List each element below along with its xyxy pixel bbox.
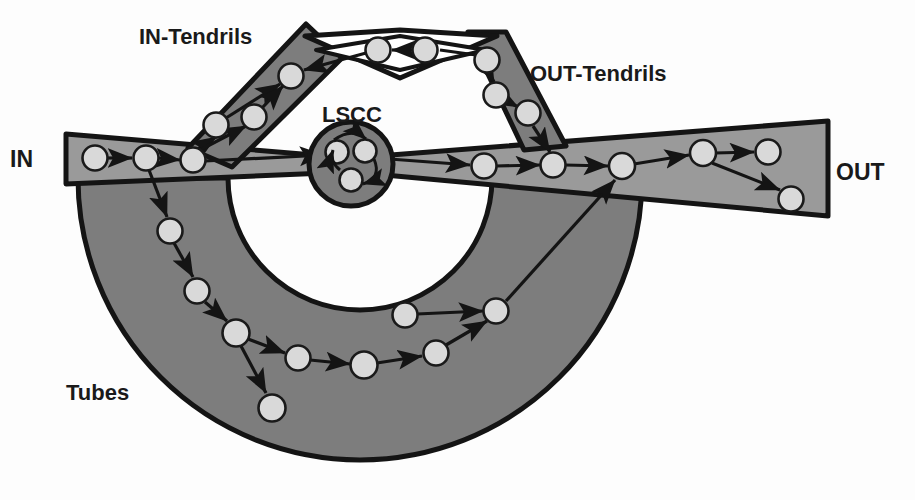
- node-in-tendril-3[interactable]: [279, 64, 304, 89]
- node-out-tendril-2[interactable]: [484, 83, 509, 108]
- label-tubes: Tubes: [66, 380, 129, 405]
- edge-ou2-ou3: [565, 165, 608, 166]
- node-tube5[interactable]: [351, 352, 378, 379]
- node-out3[interactable]: [609, 153, 635, 179]
- node-tube4[interactable]: [286, 346, 311, 371]
- bowtie-diagram-svg: IN OUT IN-Tendrils OUT-Tendrils LSCC Tub…: [0, 0, 915, 500]
- lscc-core-node-3[interactable]: [340, 169, 363, 192]
- node-tube2[interactable]: [185, 279, 210, 304]
- node-in-tendril-1[interactable]: [204, 113, 229, 138]
- node-tube3[interactable]: [223, 320, 250, 347]
- node-out-tendril-3[interactable]: [516, 101, 541, 126]
- edge-in2-in3: [158, 158, 180, 160]
- regions-group: [66, 24, 828, 460]
- label-in: IN: [10, 146, 33, 172]
- node-bridge-2[interactable]: [413, 38, 438, 63]
- node-out6[interactable]: [779, 187, 804, 212]
- node-out1[interactable]: [472, 154, 497, 179]
- bowtie-diagram-canvas: IN OUT IN-Tendrils OUT-Tendrils LSCC Tub…: [0, 0, 915, 500]
- label-out: OUT: [836, 159, 885, 185]
- node-out5[interactable]: [756, 140, 781, 165]
- node-tube6[interactable]: [424, 341, 449, 366]
- node-tube7[interactable]: [484, 299, 509, 324]
- lscc-core-node-1[interactable]: [326, 141, 349, 164]
- lscc-core-node-2[interactable]: [354, 140, 377, 163]
- edge-ou4-ou5: [715, 152, 754, 153]
- node-tube1[interactable]: [158, 219, 183, 244]
- node-out2[interactable]: [541, 153, 566, 178]
- node-in1[interactable]: [83, 146, 108, 171]
- label-out-tendrils: OUT-Tendrils: [530, 61, 667, 86]
- node-in2[interactable]: [134, 146, 159, 171]
- label-lscc: LSCC: [322, 102, 382, 127]
- edge-ou1-ou2: [496, 165, 540, 166]
- label-in-tendrils: IN-Tendrils: [139, 24, 252, 49]
- node-in3[interactable]: [181, 148, 206, 173]
- node-out-tendril-1[interactable]: [475, 48, 500, 73]
- node-tube8[interactable]: [393, 303, 418, 328]
- region-lscc-core[interactable]: [309, 122, 393, 206]
- node-bridge-1[interactable]: [366, 38, 391, 63]
- node-in-tendril-2[interactable]: [242, 105, 267, 130]
- node-out4[interactable]: [690, 140, 716, 166]
- node-tube9[interactable]: [259, 395, 286, 422]
